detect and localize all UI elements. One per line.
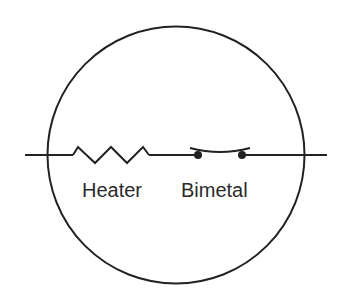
bimetal-switch-icon: [190, 148, 250, 159]
heater-resistor-icon: [73, 147, 149, 163]
heater-label: Heater: [82, 179, 142, 201]
bimetal-label: Bimetal: [181, 179, 248, 201]
circuit-diagram: Heater Bimetal: [0, 0, 343, 297]
